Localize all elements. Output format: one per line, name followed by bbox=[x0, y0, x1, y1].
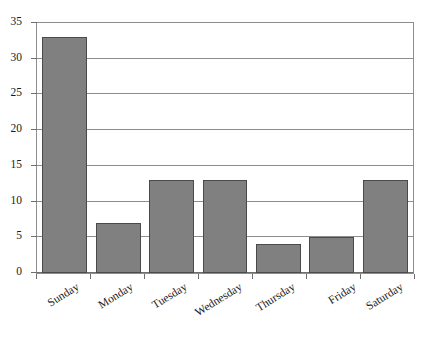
y-axis-label-5: 5 bbox=[16, 231, 22, 243]
bar-saturday[interactable] bbox=[363, 180, 408, 273]
bar-slot-tuesday bbox=[145, 23, 198, 273]
bar-thursday[interactable] bbox=[256, 244, 301, 273]
bar-chart: 0 5 10 15 20 25 30 35 bbox=[0, 0, 433, 341]
bar-slot-saturday bbox=[359, 23, 412, 273]
bar-slot-thursday bbox=[252, 23, 305, 273]
y-axis-label-35: 35 bbox=[11, 16, 23, 28]
bar-friday[interactable] bbox=[309, 237, 354, 273]
y-axis-label-15: 15 bbox=[11, 159, 23, 171]
y-axis-label-0: 0 bbox=[16, 266, 22, 278]
x-tick-7 bbox=[414, 274, 415, 279]
bar-sunday[interactable] bbox=[42, 37, 87, 273]
x-tick-0 bbox=[36, 274, 37, 279]
x-tick-5 bbox=[306, 274, 307, 279]
y-axis-label-30: 30 bbox=[11, 52, 23, 64]
bar-wednesday[interactable] bbox=[203, 180, 248, 273]
y-axis-label-25: 25 bbox=[11, 88, 23, 100]
x-tick-6 bbox=[360, 274, 361, 279]
x-tick-3 bbox=[198, 274, 199, 279]
bar-slot-friday bbox=[305, 23, 358, 273]
bar-monday[interactable] bbox=[96, 223, 141, 273]
x-tick-4 bbox=[252, 274, 253, 279]
bar-slot-wednesday bbox=[198, 23, 251, 273]
y-axis-label-10: 10 bbox=[11, 195, 23, 207]
bar-slot-monday bbox=[91, 23, 144, 273]
y-axis-label-20: 20 bbox=[11, 123, 23, 135]
plot-area: 0 5 10 15 20 25 30 35 bbox=[36, 22, 414, 274]
bar-tuesday[interactable] bbox=[149, 180, 194, 273]
bar-slot-sunday bbox=[38, 23, 91, 273]
x-tick-1 bbox=[90, 274, 91, 279]
bar-series bbox=[37, 23, 413, 273]
x-tick-2 bbox=[144, 274, 145, 279]
